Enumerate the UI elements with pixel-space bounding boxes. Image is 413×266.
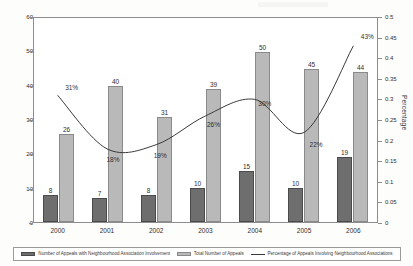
x-axis-tick-label: 2004	[230, 226, 279, 238]
y-axis-right-tick-mark	[378, 141, 382, 142]
y-axis-right-tick-mark	[378, 223, 382, 224]
bar-group: 1039	[181, 18, 230, 222]
bar-group: 1944	[328, 18, 377, 222]
legend-label: Total Number of Appeals	[194, 251, 244, 257]
legend-item[interactable]: Percentage of Appeals Involving Neighbou…	[251, 251, 393, 257]
bar-total[interactable]: 50	[255, 52, 270, 222]
legend-swatch-icon	[251, 252, 265, 256]
y-axis-right-tick-label: 0.2	[385, 138, 413, 144]
x-axis-tick-label: 2002	[132, 226, 181, 238]
y-axis-right-tick-mark	[378, 202, 382, 203]
scan-artifact	[258, 2, 328, 7]
bar-total[interactable]: 40	[108, 86, 123, 222]
bar-involvement[interactable]: 19	[337, 157, 352, 222]
bars-layer: 8267408311039155010451944	[34, 18, 377, 222]
y-axis-left-tick-mark	[29, 223, 33, 224]
bar-total[interactable]: 31	[157, 117, 172, 222]
chart-legend: Number of Appeals with Neighbourhood Ass…	[13, 247, 401, 261]
bar-involvement[interactable]: 15	[239, 171, 254, 222]
bar-value-label: 39	[210, 81, 217, 88]
x-axis-categories: 2000200120022003200420052006	[33, 226, 378, 238]
bar-group: 740	[83, 18, 132, 222]
y-axis-right-tick-mark	[378, 161, 382, 162]
bar-value-label: 50	[259, 44, 266, 51]
bar-total[interactable]: 39	[206, 89, 221, 222]
bar-value-label: 8	[147, 187, 151, 194]
x-axis-tick-label: 2005	[279, 226, 328, 238]
legend-label: Percentage of Appeals Involving Neighbou…	[268, 251, 393, 257]
x-axis-tick-label: 2001	[82, 226, 131, 238]
y-axis-right-tick-label: 0.1	[385, 179, 413, 185]
legend-item[interactable]: Total Number of Appeals	[177, 251, 244, 257]
bar-value-label: 10	[194, 180, 201, 187]
bar-value-label: 31	[161, 109, 168, 116]
bar-group: 1550	[230, 18, 279, 222]
bar-total[interactable]: 26	[59, 134, 74, 222]
y-axis-right-tick-label: 0.15	[385, 158, 413, 164]
y-axis-right-tick-label: 0.45	[385, 35, 413, 41]
legend-label: Number of Appeals with Neighbourhood Ass…	[38, 251, 170, 257]
bar-value-label: 8	[49, 187, 53, 194]
y-axis-right-tick-mark	[378, 120, 382, 121]
y-axis-right-tick-mark	[378, 99, 382, 100]
combo-chart: 0102030405060 00.050.10.150.20.250.30.35…	[0, 0, 413, 266]
y-axis-right-tick-mark	[378, 182, 382, 183]
y-axis-right-tick-label: 0	[385, 220, 413, 226]
y-axis-right-tick-mark	[378, 58, 382, 59]
x-axis-tick-label: 2003	[181, 226, 230, 238]
y-axis-right-tick-mark	[378, 79, 382, 80]
y-axis-right-tick-label: 0.25	[385, 117, 413, 123]
bar-total[interactable]: 45	[304, 69, 319, 222]
y-axis-right-tick-label: 0.05	[385, 199, 413, 205]
bar-value-label: 44	[357, 64, 364, 71]
bar-group: 826	[34, 18, 83, 222]
bar-value-label: 40	[112, 78, 119, 85]
bar-involvement[interactable]: 10	[288, 188, 303, 222]
y-axis-right-tick-label: 0.3	[385, 96, 413, 102]
bar-value-label: 26	[63, 126, 70, 133]
bar-value-label: 7	[98, 190, 102, 197]
x-axis-tick-label: 2000	[33, 226, 82, 238]
bar-total[interactable]: 44	[353, 72, 368, 222]
legend-swatch-icon	[177, 252, 191, 256]
bar-involvement[interactable]: 8	[141, 195, 156, 222]
bar-value-label: 19	[341, 149, 348, 156]
bar-involvement[interactable]: 10	[190, 188, 205, 222]
y-axis-left: 0102030405060	[0, 0, 33, 266]
x-axis-tick-label: 2006	[329, 226, 378, 238]
y-axis-right-tick-mark	[378, 38, 382, 39]
bar-group: 831	[132, 18, 181, 222]
bar-value-label: 10	[292, 180, 299, 187]
y-axis-right-tick-label: 0.35	[385, 76, 413, 82]
y-axis-right-title: Percentage	[401, 95, 408, 130]
y-axis-right-tick-label: 0.4	[385, 55, 413, 61]
bar-value-label: 15	[243, 163, 250, 170]
y-axis-right-tick-label: 0.5	[385, 14, 413, 20]
bar-involvement[interactable]: 8	[43, 195, 58, 222]
y-axis-right: 00.050.10.150.20.250.30.350.40.450.5	[378, 0, 413, 266]
legend-swatch-icon	[21, 252, 35, 256]
legend-item[interactable]: Number of Appeals with Neighbourhood Ass…	[21, 251, 170, 257]
bar-group: 1045	[279, 18, 328, 222]
y-axis-right-tick-mark	[378, 17, 382, 18]
bar-involvement[interactable]: 7	[92, 198, 107, 222]
bar-value-label: 45	[308, 61, 315, 68]
